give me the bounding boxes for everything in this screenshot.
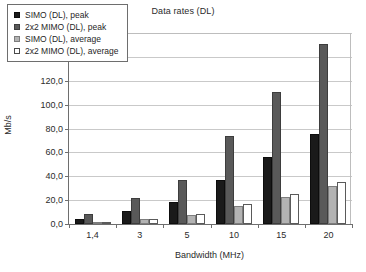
bar <box>281 197 290 224</box>
y-tick-label: 0,0 <box>50 219 63 229</box>
bar <box>337 182 346 224</box>
y-tick-label: 120,0 <box>40 76 63 86</box>
bar <box>149 219 158 224</box>
bar-group <box>258 33 305 224</box>
x-tick-mark <box>116 224 117 228</box>
bar <box>328 186 337 224</box>
bar <box>122 211 131 224</box>
x-tick-mark <box>211 224 212 228</box>
bar <box>169 202 178 224</box>
y-tick-label: 40,0 <box>45 171 63 181</box>
y-tick-label: 80,0 <box>45 124 63 134</box>
bar <box>263 157 272 224</box>
bar <box>178 180 187 224</box>
bar <box>319 44 328 224</box>
legend-label: 2x2 MIMO (DL), peak <box>25 22 106 32</box>
bar <box>243 204 252 224</box>
x-tick-label: 15 <box>276 230 286 240</box>
y-axis-label: Mb/s <box>3 105 13 145</box>
x-tick-mark <box>305 224 306 228</box>
bar <box>196 214 205 224</box>
legend-label: 2x2 MIMO (DL), average <box>25 46 119 56</box>
legend-label: SIMO (DL), peak <box>25 10 89 20</box>
bar <box>84 214 93 225</box>
bar <box>75 219 84 224</box>
legend-swatch-icon <box>14 36 20 42</box>
legend-label: SIMO (DL), average <box>25 34 101 44</box>
legend-item: SIMO (DL), average <box>14 33 119 45</box>
x-tick-mark <box>258 224 259 228</box>
x-tick-mark <box>69 224 70 228</box>
bar <box>131 198 140 224</box>
legend-swatch-icon <box>14 24 20 30</box>
bar <box>140 219 149 224</box>
x-axis-label: Bandwidth (MHz) <box>68 250 351 260</box>
bar <box>216 180 225 224</box>
bar-group <box>211 33 258 224</box>
bar <box>310 134 319 224</box>
bar <box>102 222 111 224</box>
bar-group <box>305 33 352 224</box>
x-tick-mark <box>352 224 353 228</box>
legend-swatch-icon <box>14 12 20 18</box>
x-tick-label: 10 <box>229 230 239 240</box>
bar <box>93 222 102 224</box>
bar <box>234 206 243 224</box>
bar <box>187 215 196 224</box>
bar <box>272 92 281 224</box>
x-tick-label: 5 <box>184 230 189 240</box>
bar <box>290 194 299 224</box>
y-tick-label: 100,0 <box>40 100 63 110</box>
legend-item: 2x2 MIMO (DL), average <box>14 45 119 57</box>
x-tick-mark <box>163 224 164 228</box>
x-tick-label: 3 <box>137 230 142 240</box>
chart-legend: SIMO (DL), peak2x2 MIMO (DL), peakSIMO (… <box>7 4 128 62</box>
x-tick-label: 1,4 <box>86 230 99 240</box>
y-tick-label: 20,0 <box>45 195 63 205</box>
legend-item: SIMO (DL), peak <box>14 9 119 21</box>
chart-container: Data rates (DL) Mb/s 0,020,040,060,080,0… <box>0 0 366 272</box>
legend-swatch-icon <box>14 48 20 54</box>
y-tick-label: 60,0 <box>45 147 63 157</box>
x-tick-label: 20 <box>323 230 333 240</box>
bar-group <box>163 33 210 224</box>
legend-item: 2x2 MIMO (DL), peak <box>14 21 119 33</box>
bar <box>225 136 234 224</box>
